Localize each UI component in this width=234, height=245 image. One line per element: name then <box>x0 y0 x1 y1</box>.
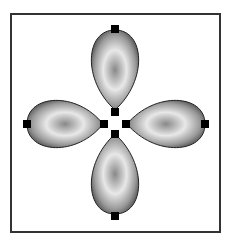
orbital-diagram <box>0 0 234 245</box>
marker-bottom-inner <box>111 130 119 138</box>
marker-top-inner <box>111 108 119 116</box>
marker-right-inner <box>122 120 130 128</box>
marker-bottom-outer <box>111 212 119 220</box>
marker-top-outer <box>111 25 119 33</box>
marker-left-outer <box>23 120 31 128</box>
marker-right-outer <box>201 120 209 128</box>
marker-left-inner <box>100 120 108 128</box>
